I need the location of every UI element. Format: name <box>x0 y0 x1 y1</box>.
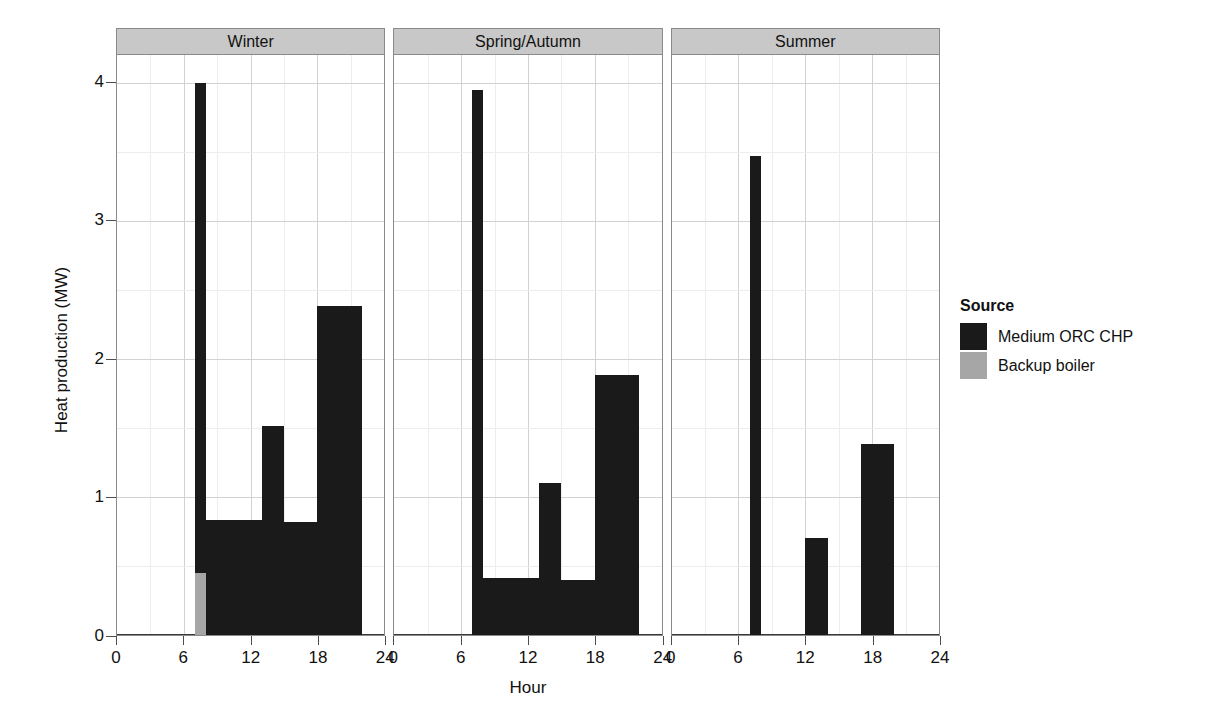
x-axis-tick-mark <box>393 636 394 645</box>
x-axis-tick-mark <box>873 636 874 645</box>
panel-plot-area <box>671 54 940 636</box>
y-axis-tick-label: 1 <box>64 487 104 507</box>
y-axis-title-container: Heat production (MW) <box>22 40 52 600</box>
facet-strip-label: Summer <box>671 28 940 54</box>
x-axis-tick-label: 12 <box>241 648 260 668</box>
grid-line-horizontal-minor <box>672 152 939 153</box>
grid-line-vertical <box>461 55 462 635</box>
x-axis-tick-label: 12 <box>796 648 815 668</box>
x-axis-tick-mark <box>183 636 184 645</box>
x-axis-tick-label: 12 <box>519 648 538 668</box>
facet-panels: WinterSpring/AutumnSummer <box>116 28 940 636</box>
x-axis-tick-label: 18 <box>863 648 882 668</box>
y-axis-tick-label: 4 <box>64 72 104 92</box>
bar-chp <box>206 520 217 635</box>
y-axis-tick-mark <box>106 359 116 360</box>
legend-color-swatch <box>960 352 987 379</box>
legend-item: Backup boiler <box>960 352 1200 379</box>
x-axis-tick-mark <box>805 636 806 645</box>
y-axis-tick-mark <box>106 82 116 83</box>
grid-line-vertical-minor <box>839 55 840 635</box>
x-axis-tick-label: 6 <box>179 648 188 668</box>
y-axis-tick-mark <box>106 220 116 221</box>
y-axis: 01234 <box>60 0 116 722</box>
grid-line-horizontal-minor <box>394 152 661 153</box>
grid-line-horizontal-minor <box>672 290 939 291</box>
y-axis-tick-mark <box>106 636 116 637</box>
grid-line-horizontal <box>672 497 939 498</box>
bar-chp <box>262 426 284 635</box>
legend-color-swatch <box>960 323 987 350</box>
grid-line-horizontal <box>117 221 384 222</box>
y-axis-tick-label: 2 <box>64 349 104 369</box>
bar-chp <box>472 90 483 635</box>
bar-chp <box>317 306 362 635</box>
grid-line-horizontal <box>672 359 939 360</box>
x-axis-tick-mark <box>738 636 739 645</box>
x-axis-tick-mark <box>461 636 462 645</box>
bar-chp <box>561 580 594 635</box>
x-axis-tick-mark <box>251 636 252 645</box>
grid-line-vertical <box>738 55 739 635</box>
grid-line-horizontal <box>394 83 661 84</box>
legend-item-label: Backup boiler <box>998 357 1095 375</box>
y-axis-tick-label: 3 <box>64 210 104 230</box>
grid-line-horizontal-minor <box>117 290 384 291</box>
bar-chp <box>217 520 262 635</box>
grid-line-horizontal-minor <box>117 152 384 153</box>
x-axis-tick-mark <box>671 636 672 645</box>
x-axis-tick-mark <box>595 636 596 645</box>
x-axis-tick-mark <box>385 636 386 645</box>
bar-chp <box>284 522 317 635</box>
grid-line-horizontal <box>672 221 939 222</box>
grid-line-vertical <box>528 55 529 635</box>
x-axis-tick-label: 6 <box>733 648 742 668</box>
facet-panel: Winter <box>116 28 385 636</box>
legend-item: Medium ORC CHP <box>960 323 1200 350</box>
x-axis-tick-label: 18 <box>309 648 328 668</box>
x-axis-tick-label: 18 <box>586 648 605 668</box>
facet-strip-label: Winter <box>116 28 385 54</box>
x-axis-tick-label: 6 <box>456 648 465 668</box>
grid-line-vertical-minor <box>705 55 706 635</box>
grid-line-vertical-minor <box>561 55 562 635</box>
x-axis-title: Hour <box>116 678 940 698</box>
grid-line-vertical-minor <box>906 55 907 635</box>
x-axis-tick-mark <box>116 636 117 645</box>
legend-entries: Medium ORC CHPBackup boiler <box>960 323 1200 379</box>
x-axis-tick-mark <box>528 636 529 645</box>
bar-chp <box>495 578 540 635</box>
x-axis-tick-label: 0 <box>389 648 398 668</box>
bar-chp <box>750 156 761 635</box>
facet-panel: Spring/Autumn <box>393 28 662 636</box>
bar-chp <box>195 83 206 635</box>
bar-chp <box>483 578 494 635</box>
facet-strip-label: Spring/Autumn <box>393 28 662 54</box>
bar-chp <box>595 375 640 635</box>
grid-line-vertical-minor <box>150 55 151 635</box>
bar-chp <box>861 444 894 635</box>
grid-line-horizontal <box>672 83 939 84</box>
panel-plot-area <box>116 54 385 636</box>
grid-line-vertical-minor <box>772 55 773 635</box>
x-axis-tick-mark <box>663 636 664 645</box>
grid-line-horizontal <box>117 83 384 84</box>
grid-line-horizontal <box>394 221 661 222</box>
facet-panel: Summer <box>671 28 940 636</box>
grid-line-horizontal <box>394 359 661 360</box>
x-axis-tick-label: 24 <box>931 648 950 668</box>
x-axis-tick-mark <box>940 636 941 645</box>
bar-chp <box>805 538 827 635</box>
y-axis-tick-label: 0 <box>64 626 104 646</box>
x-axis-tick-mark <box>318 636 319 645</box>
x-axis-tick-label: 0 <box>111 648 120 668</box>
grid-line-horizontal-minor <box>672 428 939 429</box>
x-axis-tick-label: 0 <box>666 648 675 668</box>
grid-line-horizontal-minor <box>394 290 661 291</box>
chart-figure: Heat production (MW) 01234 WinterSpring/… <box>0 0 1217 722</box>
panel-plot-area <box>393 54 662 636</box>
bar-chp <box>539 483 561 635</box>
bar-boiler <box>195 573 206 635</box>
legend-item-label: Medium ORC CHP <box>998 328 1133 346</box>
y-axis-tick-mark <box>106 497 116 498</box>
